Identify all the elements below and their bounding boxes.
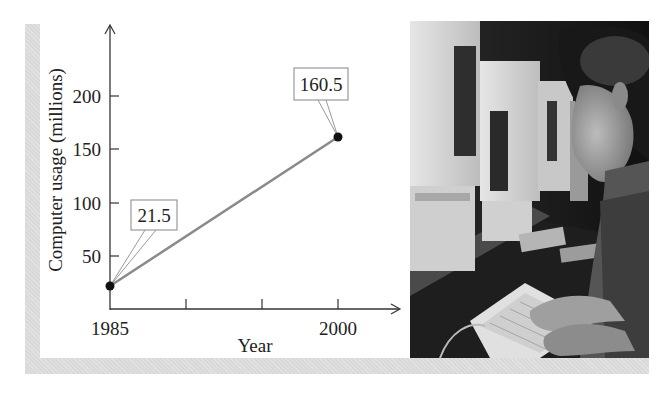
x-axis-label: Year (237, 335, 273, 356)
data-label-2000: 160.5 (300, 74, 343, 95)
callout-160-5: 160.5 (294, 68, 348, 137)
decorative-frame-bottom (25, 358, 649, 374)
y-tick-label-100: 100 (73, 193, 102, 214)
data-point-2000 (334, 133, 343, 142)
data-label-1985: 21.5 (137, 205, 170, 226)
line-chart: 200 150 100 50 1985 2000 Year Computer u… (0, 0, 410, 360)
y-tick-label-150: 150 (73, 139, 102, 160)
photo-illustration (410, 21, 649, 358)
y-tick-label-50: 50 (82, 246, 101, 267)
x-tick-label-1985: 1985 (91, 318, 129, 339)
data-point-1985 (106, 282, 115, 291)
y-axis-label: Computer usage (millions) (45, 68, 67, 272)
photo-woman-typing-at-computer (410, 21, 649, 358)
y-tick-label-200: 200 (73, 86, 102, 107)
x-tick-label-2000: 2000 (319, 318, 357, 339)
x-ticks (186, 299, 338, 309)
callout-21-5: 21.5 (110, 200, 177, 286)
y-ticks (110, 96, 119, 256)
